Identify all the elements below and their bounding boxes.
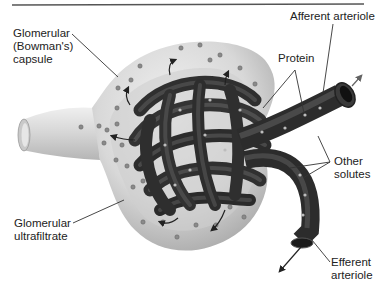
label-other-solutes: Other solutes [334, 155, 370, 181]
label-protein: Protein [278, 52, 314, 65]
glomerulus-diagram: Glomerular (Bowman's) capsule Afferent a… [0, 0, 384, 291]
label-glomerular-ultrafiltrate: Glomerular ultrafiltrate [14, 217, 71, 243]
label-bowmans-capsule: Glomerular (Bowman's) capsule [13, 27, 73, 66]
top-rule [12, 4, 364, 5]
label-afferent-arteriole: Afferent arteriole [290, 10, 375, 23]
proximal-tubule [18, 108, 100, 161]
label-efferent-arteriole: Efferent arteriole [331, 256, 373, 282]
